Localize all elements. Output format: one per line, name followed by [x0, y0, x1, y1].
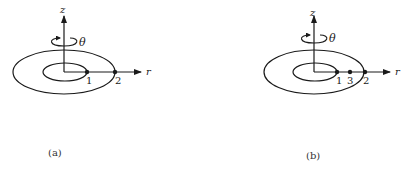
point-2: [113, 70, 117, 74]
point-3-label: 3: [347, 75, 353, 86]
caption-b: (b): [306, 150, 320, 161]
r-label: r: [146, 66, 152, 77]
z-label: z: [59, 4, 66, 15]
panel-b: z θ r 1 3 2 (b): [264, 7, 401, 161]
point-1: [335, 70, 339, 74]
z-label: z: [309, 7, 316, 18]
theta-label: θ: [329, 32, 336, 45]
point-3: [348, 70, 352, 74]
theta-label: θ: [79, 36, 86, 49]
point-1: [85, 70, 89, 74]
panel-a: z θ r 1 2 (a): [13, 4, 152, 158]
point-2: [363, 70, 367, 74]
point-1-label: 1: [86, 75, 92, 86]
point-2-label: 2: [115, 75, 121, 86]
caption-a: (a): [48, 147, 62, 158]
r-label: r: [395, 66, 401, 77]
point-2-label: 2: [363, 75, 369, 86]
diagram-canvas: z θ r 1 2 (a) z θ r 1 3 2 (b): [0, 0, 414, 174]
point-1-label: 1: [336, 75, 342, 86]
